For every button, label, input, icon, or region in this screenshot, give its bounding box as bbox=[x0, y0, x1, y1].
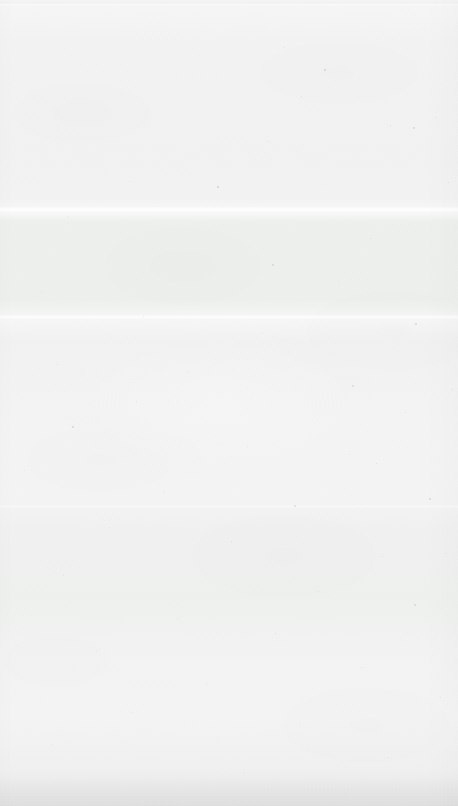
scanned-page bbox=[0, 0, 458, 806]
paper-background bbox=[0, 0, 458, 806]
